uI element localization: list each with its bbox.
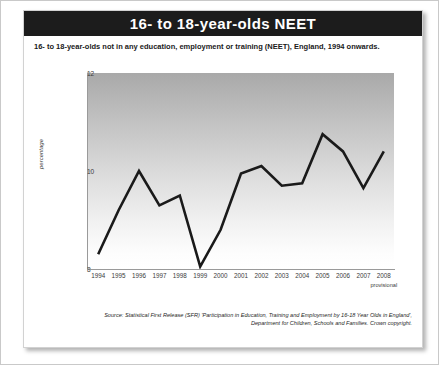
x-tick-label: 1996: [132, 272, 146, 279]
x-tick-label: 2000: [214, 272, 228, 279]
source-line-2: Department for Children, Schools and Fam…: [104, 319, 412, 327]
x-tick-label: 2004: [295, 272, 309, 279]
x-tick-label: 2008: [377, 272, 391, 279]
x-tick-label: 1999: [193, 272, 207, 279]
y-axis-label: percentage: [38, 139, 44, 169]
outer-frame: 16- to 18-year-olds NEET 16- to 18-year-…: [0, 0, 439, 365]
chart-card: 16- to 18-year-olds NEET 16- to 18-year-…: [23, 10, 423, 348]
source-line-1: Source: Statistical First Release (SFR) …: [104, 311, 412, 319]
x-tick-annotation: provisional: [370, 282, 397, 288]
line-chart: percentage 81012 19941995199619971998199…: [36, 69, 412, 307]
x-axis: [87, 269, 395, 270]
x-tick-label: 2003: [275, 272, 289, 279]
card-header: 16- to 18-year-olds NEET: [24, 11, 422, 36]
series-line: [88, 73, 394, 269]
x-tick-label: 1994: [91, 272, 105, 279]
page-title: 16- to 18-year-olds NEET: [130, 15, 316, 32]
x-tick-label: 1997: [152, 272, 166, 279]
chart-subtitle: 16- to 18-year-olds not in any education…: [34, 41, 414, 52]
x-tick-label: 2006: [336, 272, 350, 279]
x-tick-label: 1998: [173, 272, 187, 279]
x-tick-label: 2007: [356, 272, 370, 279]
x-tick-group: 1994199519961997199819992000200120022003…: [88, 272, 394, 300]
x-tick-label: 2002: [254, 272, 268, 279]
x-tick-label: 2001: [234, 272, 248, 279]
x-tick-label: 2005: [316, 272, 330, 279]
source-note: Source: Statistical First Release (SFR) …: [104, 311, 412, 327]
x-tick-label: 1995: [112, 272, 126, 279]
